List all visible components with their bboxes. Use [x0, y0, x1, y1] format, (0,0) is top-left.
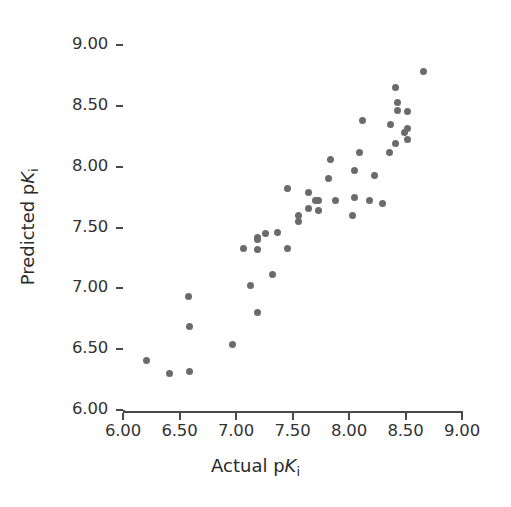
data-point — [254, 236, 261, 243]
axis-title-variable: K — [17, 172, 38, 184]
x-tick-label: 8.00 — [319, 421, 379, 440]
data-point — [394, 107, 401, 114]
data-point — [356, 149, 363, 156]
x-tick-label: 7.50 — [263, 421, 323, 440]
y-tick-mark — [116, 166, 123, 168]
y-tick-label: 9.00 — [56, 34, 108, 53]
plot-area — [123, 45, 462, 410]
data-point — [404, 108, 411, 115]
data-point — [315, 207, 322, 214]
data-point — [404, 136, 411, 143]
x-tick-mark — [405, 413, 407, 420]
y-tick-label: 7.00 — [56, 277, 108, 296]
x-tick-label: 6.50 — [150, 421, 210, 440]
axis-title-subscript: i — [296, 464, 300, 479]
data-point — [305, 189, 312, 196]
scatter-plot-figure: 6.006.507.007.508.008.509.00 6.006.507.0… — [0, 0, 511, 507]
x-tick-label: 7.00 — [206, 421, 266, 440]
x-tick-mark — [292, 413, 294, 420]
data-point — [387, 121, 394, 128]
data-point — [284, 245, 291, 252]
x-tick-mark — [122, 413, 124, 420]
x-tick-label: 8.50 — [376, 421, 436, 440]
y-tick-label: 8.50 — [56, 95, 108, 114]
y-tick-label: 6.50 — [56, 338, 108, 357]
y-tick-mark — [116, 105, 123, 107]
data-point — [305, 205, 312, 212]
axis-title-variable: K — [285, 455, 297, 476]
data-point — [349, 212, 356, 219]
data-point — [143, 357, 150, 364]
data-point — [351, 167, 358, 174]
data-point — [351, 194, 358, 201]
x-tick-mark — [461, 413, 463, 420]
y-tick-mark — [116, 287, 123, 289]
data-point — [420, 68, 427, 75]
data-point — [254, 246, 261, 253]
x-tick-mark — [235, 413, 237, 420]
y-tick-mark — [116, 348, 123, 350]
data-point — [392, 84, 399, 91]
y-tick-label: 8.00 — [56, 156, 108, 175]
x-tick-label: 6.00 — [93, 421, 153, 440]
data-point — [186, 368, 193, 375]
data-point — [392, 140, 399, 147]
data-point — [325, 175, 332, 182]
data-point — [379, 200, 386, 207]
axis-title-prefix: Predicted p — [17, 184, 38, 286]
x-tick-mark — [179, 413, 181, 420]
data-point — [185, 293, 192, 300]
data-point — [284, 185, 291, 192]
y-tick-label: 7.50 — [56, 217, 108, 236]
data-point — [274, 229, 281, 236]
data-point — [269, 271, 276, 278]
data-point — [186, 323, 193, 330]
data-point — [366, 197, 373, 204]
data-point — [295, 218, 302, 225]
data-point — [394, 99, 401, 106]
y-tick-mark — [116, 227, 123, 229]
y-tick-mark — [116, 44, 123, 46]
data-point — [247, 282, 254, 289]
data-point — [254, 309, 261, 316]
x-axis-title: Actual pKi — [0, 455, 511, 479]
data-point — [332, 197, 339, 204]
data-point — [371, 172, 378, 179]
x-tick-label: 9.00 — [432, 421, 492, 440]
data-point — [386, 149, 393, 156]
axis-title-subscript: i — [26, 168, 41, 172]
x-tick-mark — [348, 413, 350, 420]
data-point — [262, 230, 269, 237]
y-axis-title: Predicted pKi — [17, 112, 41, 342]
data-point — [404, 125, 411, 132]
axis-title-prefix: Actual p — [211, 455, 285, 476]
data-point — [327, 156, 334, 163]
y-tick-label: 6.00 — [56, 399, 108, 418]
y-tick-mark — [116, 409, 123, 411]
data-point — [229, 341, 236, 348]
data-point — [166, 370, 173, 377]
data-point — [359, 117, 366, 124]
data-point — [240, 245, 247, 252]
data-point — [312, 197, 319, 204]
